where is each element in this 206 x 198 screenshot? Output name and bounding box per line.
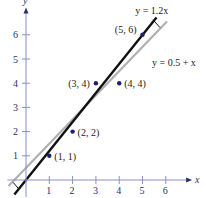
chart: xy123456123456(1, 1)(2, 2)(3, 4)(4, 4)(5… xyxy=(0,0,206,198)
y-axis-label: y xyxy=(22,0,28,6)
x-tick-label: 1 xyxy=(46,185,51,196)
data-point xyxy=(70,129,74,133)
y-axis-arrow-icon xyxy=(24,8,29,14)
bracket-right xyxy=(153,20,160,28)
point-label: (4, 4) xyxy=(124,78,146,90)
point-label: (5, 6) xyxy=(115,24,137,36)
equation-label-0.5-plus-x: y = 0.5 + x xyxy=(152,57,196,68)
x-tick-label: 4 xyxy=(116,185,121,196)
y-tick-label: 2 xyxy=(13,126,18,137)
x-tick-label: 5 xyxy=(140,185,145,196)
point-label: (3, 4) xyxy=(68,78,90,90)
x-tick-label: 2 xyxy=(70,185,75,196)
y-tick-label: 6 xyxy=(13,29,18,40)
x-tick-label: 3 xyxy=(93,185,98,196)
y-tick-label: 3 xyxy=(13,102,18,113)
x-axis-arrow-icon xyxy=(186,178,192,183)
y-tick-label: 4 xyxy=(13,78,18,89)
y-tick-label: 1 xyxy=(13,150,18,161)
point-label: (1, 1) xyxy=(54,151,76,163)
x-tick-label: 6 xyxy=(163,185,168,196)
x-axis-label: x xyxy=(194,174,200,185)
data-point xyxy=(94,81,98,85)
point-label: (2, 2) xyxy=(78,127,100,139)
data-point xyxy=(117,81,121,85)
y-tick-label: 5 xyxy=(13,54,18,65)
line-y-1.2x xyxy=(14,17,156,194)
bracket-left xyxy=(13,182,19,189)
equation-label-1.2x: y = 1.2x xyxy=(135,5,168,16)
data-point xyxy=(47,154,51,158)
data-point xyxy=(140,33,144,37)
plot-area: xy123456123456(1, 1)(2, 2)(3, 4)(4, 4)(5… xyxy=(0,0,206,198)
